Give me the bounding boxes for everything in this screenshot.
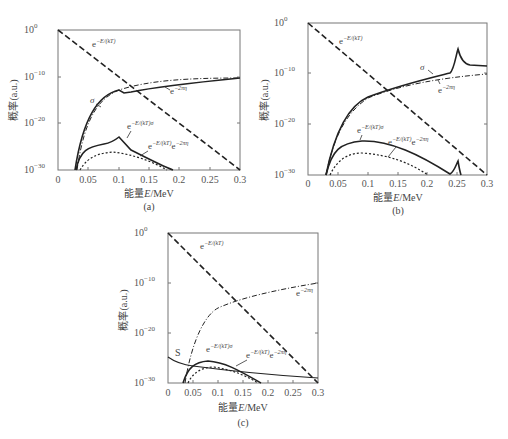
svg-text:0.2: 0.2	[173, 174, 186, 185]
svg-text:0: 0	[56, 174, 61, 185]
svg-text:10−20: 10−20	[134, 325, 155, 338]
svg-text:0.1: 0.1	[362, 178, 375, 189]
svg-text:10−30: 10−30	[274, 167, 295, 180]
svg-text:0.15: 0.15	[140, 174, 158, 185]
label-exp-2pn-c: e−2πη	[296, 287, 313, 298]
x-axis-ticks-b: 0 0.05 0.1 0.15 0.2 0.25 0.3	[306, 178, 494, 189]
curve-sigma-a	[75, 78, 240, 170]
svg-text:10−30: 10−30	[24, 162, 45, 175]
svg-text:0.3: 0.3	[312, 387, 325, 398]
label-exp-ekt-sigma-b: e−E/(kT)σ	[357, 124, 384, 135]
label-exp-ekt-sigma-c: e−E/(kT)σ	[206, 343, 233, 354]
svg-text:0.25: 0.25	[448, 178, 466, 189]
label-exp-ekt-a: e−E/(kT)	[92, 38, 115, 49]
svg-text:0.25: 0.25	[201, 174, 219, 185]
svg-text:100: 100	[274, 15, 288, 28]
svg-text:0.1: 0.1	[113, 174, 126, 185]
label-exp-ekt-sigma-a: e−E/(kT)σ	[127, 120, 154, 131]
y-axis-label-b: 概率(a.u.)	[258, 79, 271, 120]
svg-text:0.3: 0.3	[481, 178, 494, 189]
svg-text:0.2: 0.2	[262, 387, 275, 398]
svg-text:100: 100	[134, 225, 148, 238]
y-axis-label-a: 概率(a.u.)	[7, 79, 20, 120]
svg-text:10−10: 10−10	[134, 275, 155, 288]
svg-text:0.15: 0.15	[389, 178, 407, 189]
svg-text:10−10: 10−10	[274, 65, 295, 78]
svg-text:10−10: 10−10	[24, 69, 45, 82]
svg-text:100: 100	[24, 22, 38, 35]
label-exp-2pn-b: e−2πη	[438, 84, 455, 95]
y-axis-ticks-c: 100 10−10 10−20 10−30	[134, 225, 155, 388]
y-axis-label-c: 概率(a.u.)	[117, 289, 130, 330]
svg-text:0.05: 0.05	[79, 174, 97, 185]
x-axis-label-a: 能量E/MeV	[124, 187, 174, 199]
svg-text:0.25: 0.25	[284, 387, 302, 398]
panel-c: 100 10−10 10−20 10−30 0 0.05 0.1 0.15 0.…	[117, 225, 324, 429]
curve-exp-2pn-a	[77, 78, 240, 170]
panel-b: 100 10−10 10−20 10−30 0 0.05 0.1 0.15 0.…	[258, 15, 493, 217]
label-exp-2pn-a: e−2πη	[170, 85, 187, 96]
figure: 100 10−10 10−20 10−30 0 0.05 0.1 0.15 0.…	[0, 0, 508, 439]
svg-text:0: 0	[166, 387, 171, 398]
x-axis-ticks-c: 0 0.05 0.1 0.15 0.2 0.25 0.3	[166, 387, 325, 398]
x-axis-label-b: 能量E/MeV	[373, 191, 423, 203]
caption-b: (b)	[392, 205, 404, 217]
svg-text:0.15: 0.15	[234, 387, 252, 398]
svg-text:10−20: 10−20	[274, 116, 295, 129]
x-axis-ticks-a: 0 0.05 0.1 0.15 0.2 0.25 0.3	[56, 174, 247, 185]
label-exp-ekt-b: e−E/(kT)	[339, 35, 362, 46]
curve-exp-ekt-2pn-b	[330, 153, 428, 175]
label-S-c: S	[175, 347, 181, 358]
curve-exp-ekt-c	[168, 233, 318, 383]
label-sigma-a: σ	[90, 95, 95, 105]
label-exp-ekt-2pn-a: e−E/(kT)e−2πη	[148, 140, 188, 151]
curve-sigma-b	[326, 49, 487, 175]
curve-exp-2pn-b	[326, 74, 487, 175]
svg-text:0.05: 0.05	[329, 178, 347, 189]
svg-text:0.3: 0.3	[234, 174, 247, 185]
x-axis-label-c: 能量E/MeV	[218, 401, 268, 413]
svg-text:0.05: 0.05	[184, 387, 202, 398]
svg-text:10−30: 10−30	[134, 375, 155, 388]
label-exp-ekt-2pn-c: e−E/(kT)e−2πη	[246, 349, 286, 360]
svg-text:0.1: 0.1	[212, 387, 225, 398]
panel-a: 100 10−10 10−20 10−30 0 0.05 0.1 0.15 0.…	[7, 22, 246, 213]
label-sigma-b: σ	[420, 62, 425, 72]
svg-text:0.2: 0.2	[421, 178, 434, 189]
caption-a: (a)	[143, 201, 154, 213]
y-axis-ticks-a: 100 10−10 10−20 10−30	[24, 22, 45, 175]
label-exp-ekt-c: e−E/(kT)	[200, 240, 223, 251]
svg-text:0: 0	[306, 178, 311, 189]
svg-text:10−20: 10−20	[24, 115, 45, 128]
caption-c: (c)	[237, 417, 248, 429]
y-axis-ticks-b: 100 10−10 10−20 10−30	[274, 15, 295, 180]
